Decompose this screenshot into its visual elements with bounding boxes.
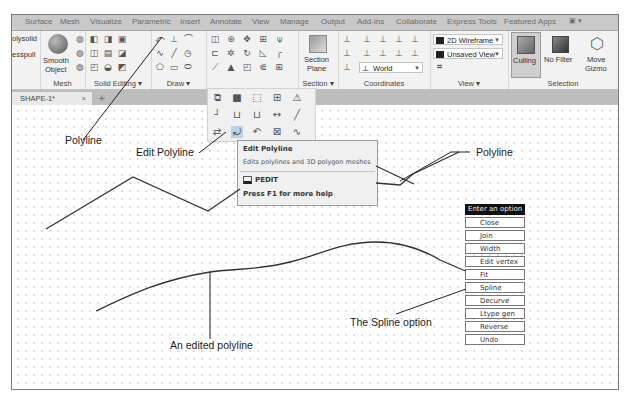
ucs-face-icon[interactable]: ⊥ bbox=[394, 34, 404, 44]
break-icon[interactable]: ■ bbox=[231, 92, 243, 104]
ucs-3point-icon[interactable]: ⊥ bbox=[394, 48, 404, 58]
fillet-edge-icon[interactable]: ◒ bbox=[103, 62, 113, 72]
3d-move-icon[interactable]: ✲ bbox=[226, 48, 236, 58]
mesh-smooth-more-icon[interactable]: ◍ bbox=[75, 34, 85, 44]
ucs-object-icon[interactable]: ⊥ bbox=[410, 34, 420, 44]
option-edit-vertex[interactable]: Edit vertex bbox=[465, 256, 525, 267]
union-icon[interactable]: ◧ bbox=[89, 34, 99, 44]
edit-hatch-icon[interactable]: ⊠ bbox=[271, 126, 283, 138]
ellipse-icon[interactable]: ⬭ bbox=[183, 62, 193, 72]
coordinates-panel-title[interactable]: Coordinates bbox=[338, 79, 430, 88]
ucs-origin-icon[interactable]: ⊥ bbox=[362, 48, 372, 58]
align-icon[interactable]: ⊏ bbox=[210, 48, 220, 58]
edit-spline-icon[interactable]: ↶ bbox=[251, 126, 263, 138]
fillet-icon[interactable]: ╭ bbox=[274, 48, 284, 58]
viewport-config-icon[interactable]: ⌗ bbox=[434, 62, 444, 72]
mesh-smooth-less-icon[interactable]: ◍ bbox=[75, 48, 85, 58]
join-icon[interactable]: ⊞ bbox=[271, 92, 283, 104]
tab-view[interactable]: View bbox=[252, 17, 269, 26]
section-plane-button[interactable]: Section Plane bbox=[301, 33, 335, 75]
view-panel-title[interactable]: View ▾ bbox=[430, 79, 508, 88]
spline-icon[interactable]: ∿ bbox=[155, 48, 165, 58]
subtract-icon[interactable]: ◨ bbox=[103, 34, 113, 44]
chamfer-icon[interactable]: ⊔ bbox=[231, 109, 243, 121]
draw-panel-title[interactable]: Draw ▾ bbox=[151, 79, 206, 88]
new-tab-button[interactable]: + bbox=[98, 93, 106, 103]
tab-add-ins[interactable]: Add-ins bbox=[357, 17, 384, 26]
extract-edges-icon[interactable]: ◫ bbox=[89, 48, 99, 58]
smooth-object-button[interactable]: Smooth Object bbox=[42, 32, 74, 77]
arc-icon[interactable]: ⌒ bbox=[183, 34, 193, 44]
option-close[interactable]: Close bbox=[465, 217, 525, 228]
extend-icon[interactable]: ↔ bbox=[271, 109, 283, 121]
tab-surface[interactable]: Surface bbox=[25, 17, 53, 26]
named-view-dropdown[interactable]: Unsaved View ▼ bbox=[433, 48, 503, 59]
ucs-view-icon[interactable]: ⊥ bbox=[342, 48, 352, 58]
close-icon[interactable]: × bbox=[82, 92, 86, 105]
break-at-point-icon[interactable]: ╱ bbox=[291, 109, 303, 121]
offset-icon[interactable]: ◰ bbox=[242, 62, 252, 72]
reverse-icon[interactable]: ⇄ bbox=[211, 126, 223, 138]
document-tab-shape-1[interactable]: SHAPE-1* × bbox=[12, 92, 92, 105]
ucs-icon[interactable]: ⊥ bbox=[342, 34, 352, 44]
3d-rotate-icon[interactable]: ⊛ bbox=[226, 34, 236, 44]
trim-icon[interactable]: ⍦ bbox=[274, 34, 284, 44]
no-filter-button[interactable]: No Filter bbox=[543, 32, 577, 76]
tab-parametric[interactable]: Parametric bbox=[132, 17, 171, 26]
option-join[interactable]: Join bbox=[465, 230, 525, 241]
rotate-icon[interactable]: ↻ bbox=[242, 48, 252, 58]
mirror-icon[interactable]: ◫ bbox=[210, 34, 220, 44]
shell-icon[interactable]: ◰ bbox=[89, 62, 99, 72]
slice-icon[interactable]: ▤ bbox=[103, 48, 113, 58]
option-fit[interactable]: Fit bbox=[465, 269, 525, 280]
extrude-faces-icon[interactable]: ◪ bbox=[117, 48, 127, 58]
option-width[interactable]: Width bbox=[465, 243, 525, 254]
option-reverse[interactable]: Reverse bbox=[465, 321, 525, 332]
scale-icon[interactable]: ◺ bbox=[258, 48, 268, 58]
edit-polyline-icon[interactable]: ⤾ bbox=[231, 126, 243, 138]
tab-annotate[interactable]: Annotate bbox=[210, 17, 242, 26]
3d-solid-icon[interactable]: ⬚ bbox=[251, 92, 263, 104]
option-decurve[interactable]: Decurve bbox=[465, 295, 525, 306]
tab-collaborate[interactable]: Collaborate bbox=[396, 17, 437, 26]
culling-button[interactable]: Culling bbox=[511, 32, 541, 78]
polyline-icon[interactable]: ⤺ bbox=[155, 34, 165, 44]
ucs-named-icon[interactable]: ⊥ bbox=[342, 62, 352, 72]
tab-express-tools[interactable]: Express Tools bbox=[447, 17, 497, 26]
mesh-panel-title[interactable]: Mesh bbox=[40, 79, 85, 88]
line-icon[interactable]: ╱ bbox=[169, 48, 179, 58]
tab-output[interactable]: Output bbox=[321, 17, 345, 26]
stretch-icon[interactable]: ⟋ bbox=[210, 62, 220, 72]
option-spline[interactable]: Spline bbox=[465, 282, 525, 293]
3d-polyline-icon[interactable]: ⊥ bbox=[169, 34, 179, 44]
move-icon[interactable]: ✥ bbox=[242, 34, 252, 44]
section-panel-title[interactable]: Section ▾ bbox=[298, 79, 338, 88]
move-gizmo-button[interactable]: ⬡ Move Gizmo bbox=[581, 32, 615, 76]
tab-insert[interactable]: Insert bbox=[180, 17, 200, 26]
polygon-icon[interactable]: ⬠ bbox=[155, 62, 165, 72]
lengthen-icon[interactable]: ┘ bbox=[211, 109, 223, 121]
array-rect-icon[interactable]: ⊞ bbox=[274, 62, 284, 72]
blend-icon[interactable]: ⊔ bbox=[251, 109, 263, 121]
intersect-icon[interactable]: ▣ bbox=[117, 34, 127, 44]
tab-mesh[interactable]: Mesh bbox=[60, 17, 80, 26]
spline-edit-icon[interactable]: ∿ bbox=[291, 126, 303, 138]
tab-featured-apps[interactable]: Featured Apps bbox=[504, 17, 556, 26]
rectangle-icon[interactable]: ▭ bbox=[169, 62, 179, 72]
tab-visualize[interactable]: Visualize bbox=[90, 17, 122, 26]
option-ltype-gen[interactable]: Ltype gen bbox=[465, 308, 525, 319]
presspull-button[interactable]: esspull bbox=[12, 50, 35, 59]
circle-icon[interactable]: ◷ bbox=[183, 48, 193, 58]
option-undo[interactable]: Undo bbox=[465, 334, 525, 345]
separate-icon[interactable]: ◩ bbox=[117, 62, 127, 72]
visual-style-dropdown[interactable]: 2D Wireframe ▼ bbox=[433, 34, 503, 45]
ucs-world-icon[interactable]: ⊥ bbox=[362, 34, 372, 44]
mesh-refine-icon[interactable]: ◍ bbox=[75, 62, 85, 72]
ucs-world-dropdown[interactable]: ⊥ World ▼ bbox=[359, 62, 423, 73]
ucs-zaxis-icon[interactable]: ⊥ bbox=[378, 48, 388, 58]
tab-manage[interactable]: Manage bbox=[280, 17, 309, 26]
warning-icon[interactable]: ⚠ bbox=[291, 92, 303, 104]
offset-curve-icon[interactable]: ⋐ bbox=[258, 62, 268, 72]
ucs-x-icon[interactable]: ⊥ bbox=[410, 48, 420, 58]
panel-toggle-icon[interactable]: ▣ ▾ bbox=[569, 17, 582, 25]
